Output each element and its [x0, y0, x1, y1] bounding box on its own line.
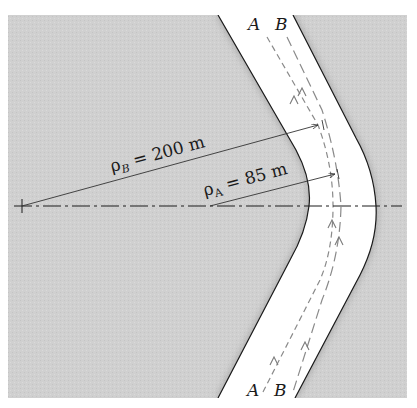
- lane-a-bottom-label: A: [245, 380, 259, 400]
- lane-b-bottom-label: B: [273, 380, 287, 400]
- lane-b-top-label: B: [274, 14, 288, 34]
- lane-a-top-label: A: [246, 14, 260, 34]
- road-curve-diagram: ρB = 200 m ρA = 85 m A B A B: [0, 0, 417, 408]
